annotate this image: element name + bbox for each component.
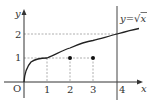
y-axis-label: y bbox=[14, 8, 21, 19]
x-axis-label: x bbox=[141, 83, 147, 94]
point-3-1 bbox=[91, 56, 95, 60]
curve-label-arg: x bbox=[140, 13, 146, 24]
sqrt-graph: y x O 2 1 1 2 3 4 y=√x bbox=[0, 0, 152, 102]
x-tick-4: 4 bbox=[119, 84, 125, 95]
curve-label: y=√x bbox=[119, 13, 146, 24]
origin-label: O bbox=[13, 83, 21, 94]
x-tick-1: 1 bbox=[44, 84, 50, 95]
curve-label-eq: = bbox=[126, 13, 134, 24]
y-axis-arrow-icon bbox=[22, 9, 27, 15]
y-tick-2: 2 bbox=[15, 29, 21, 40]
y-tick-1: 1 bbox=[15, 52, 21, 63]
x-tick-3: 3 bbox=[90, 84, 96, 95]
point-2-1 bbox=[68, 56, 72, 60]
x-tick-2: 2 bbox=[67, 84, 73, 95]
sqrt-curve bbox=[24, 29, 139, 83]
